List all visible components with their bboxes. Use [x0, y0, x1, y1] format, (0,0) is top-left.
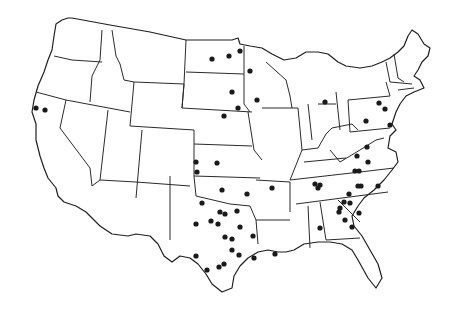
map-marker	[42, 107, 47, 112]
map-marker	[208, 218, 213, 223]
map-marker	[356, 210, 361, 215]
map-marker	[342, 217, 347, 222]
map-marker	[194, 169, 199, 174]
map-marker	[229, 89, 234, 94]
map-marker	[209, 56, 214, 61]
map-marker	[341, 199, 346, 204]
map-marker	[272, 251, 277, 256]
map-marker	[358, 183, 363, 188]
map-marker	[222, 211, 227, 216]
map-marker	[229, 236, 234, 241]
map-marker	[250, 233, 255, 238]
map-marker	[237, 224, 242, 229]
us-map-svg	[0, 0, 458, 321]
map-marker	[364, 144, 369, 149]
map-marker	[219, 187, 224, 192]
map-marker	[215, 221, 220, 226]
map-marker	[315, 185, 320, 190]
us-map	[0, 0, 458, 321]
map-marker	[346, 191, 351, 196]
map-marker	[199, 200, 204, 205]
map-marker	[222, 234, 227, 239]
map-marker	[221, 261, 226, 266]
map-marker	[33, 105, 38, 110]
map-marker	[322, 99, 327, 104]
map-marker	[317, 225, 322, 230]
map-marker	[363, 118, 368, 123]
map-marker	[254, 97, 259, 102]
map-marker	[365, 159, 370, 164]
map-marker	[347, 200, 352, 205]
map-marker	[244, 191, 249, 196]
map-marker	[269, 185, 274, 190]
map-marker	[356, 168, 361, 173]
map-marker	[216, 264, 221, 269]
map-marker	[375, 183, 380, 188]
map-marker	[382, 106, 387, 111]
map-marker	[247, 68, 252, 73]
map-marker	[336, 209, 341, 214]
map-marker	[204, 267, 209, 272]
map-marker	[229, 247, 234, 252]
map-marker	[221, 113, 226, 118]
map-marker	[387, 122, 392, 127]
map-marker	[349, 224, 354, 229]
map-marker	[193, 253, 198, 258]
map-marker	[354, 153, 359, 158]
map-marker	[251, 255, 256, 260]
map-marker	[193, 221, 198, 226]
map-marker	[214, 160, 219, 165]
map-marker	[193, 159, 198, 164]
map-marker	[217, 209, 222, 214]
map-marker	[235, 105, 240, 110]
map-marker	[226, 53, 231, 58]
map-marker	[376, 100, 381, 105]
map-marker	[237, 48, 242, 53]
map-marker	[236, 252, 241, 257]
map-marker	[234, 208, 239, 213]
